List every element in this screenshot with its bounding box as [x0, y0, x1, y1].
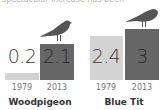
woodpigeon-bird-icon [38, 18, 74, 44]
blue-tit-1979-year: 1979 [89, 83, 123, 92]
woodpigeon-1979-bar [5, 73, 39, 80]
woodpigeon-2013-year: 2013 [40, 83, 74, 92]
blue-tit-bird-icon [124, 7, 160, 29]
blue-tit-2013-value: 3 [125, 47, 159, 66]
blue-tit-2013-year: 2013 [125, 83, 159, 92]
woodpigeon-label: Woodpigeon [2, 97, 78, 107]
caption-text: spectacular increase has been [2, 0, 124, 4]
blue-tit-1979-value: 2.4 [89, 47, 123, 66]
woodpigeon-1979-value: 0.2 [5, 47, 39, 66]
blue-tit-label: Blue Tit [86, 97, 162, 107]
woodpigeon-1979-year: 1979 [5, 83, 39, 92]
woodpigeon-2013-value: 2.1 [40, 47, 74, 66]
